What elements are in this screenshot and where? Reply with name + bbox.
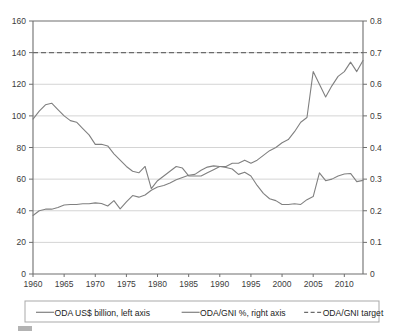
y-tick-label: 120	[12, 79, 26, 89]
y-tick-label: 20	[17, 237, 27, 247]
x-tick-label: 1985	[179, 279, 198, 289]
x-tick-label: 1960	[24, 279, 43, 289]
y2-axis-tick-labels: 00.10.20.30.40.50.60.70.8	[370, 16, 382, 279]
x-tick-label: 1975	[117, 279, 136, 289]
x-tick-label: 1970	[86, 279, 105, 289]
y-tick-label: 40	[17, 206, 27, 216]
y2-tick-label: 0.4	[370, 143, 382, 153]
y-axis-tick-labels: 020406080100120140160	[12, 16, 26, 279]
y2-tick-label: 0.5	[370, 111, 382, 121]
y-tick-label: 60	[17, 174, 27, 184]
legend-label-1: ODA/GNI %, right axis	[200, 308, 285, 318]
x-tick-label: 1995	[241, 279, 260, 289]
x-tick-label: 1980	[148, 279, 167, 289]
y2-tick-label: 0.8	[370, 16, 382, 26]
x-tick-label: 1965	[55, 279, 74, 289]
x-axis-tick-labels: 1960196519701975198019851990199520002005…	[24, 279, 355, 289]
x-tick-label: 2005	[304, 279, 323, 289]
y2-tick-label: 0	[370, 269, 375, 279]
legend-items-group: ODA US$ billion, left axisODA/GNI %, rig…	[36, 308, 384, 318]
legend-label-0: ODA US$ billion, left axis	[55, 308, 151, 318]
y2-tick-label: 0.7	[370, 48, 382, 58]
y2-tick-label: 0.2	[370, 206, 382, 216]
x-tick-label: 1990	[210, 279, 229, 289]
legend-label-2: ODA/GNI target	[323, 308, 384, 318]
x-tick-label: 2000	[273, 279, 292, 289]
y-tick-label: 100	[12, 111, 26, 121]
y-tick-label: 140	[12, 48, 26, 58]
y-tick-label: 0	[21, 269, 26, 279]
corner-artifact	[18, 326, 32, 331]
y2-tick-label: 0.3	[370, 174, 382, 184]
x-tick-label: 2010	[335, 279, 354, 289]
y2-tick-label: 0.6	[370, 79, 382, 89]
chart-figure: 020406080100120140160 00.10.20.30.40.50.…	[0, 0, 404, 335]
y-tick-label: 160	[12, 16, 26, 26]
y-tick-label: 80	[17, 143, 27, 153]
y2-tick-label: 0.1	[370, 237, 382, 247]
